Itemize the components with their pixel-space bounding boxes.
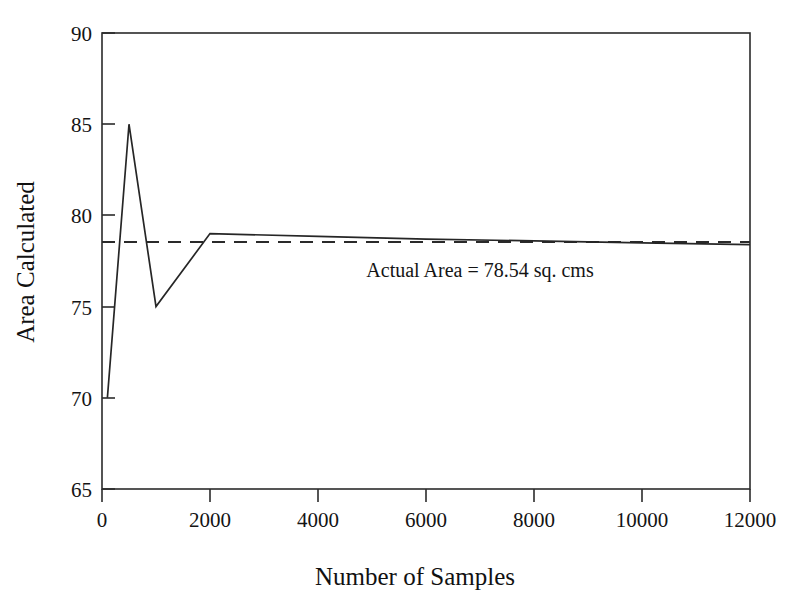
y-tick-label-75: 75 [71,296,92,320]
line-chart: 90 85 80 75 70 65 0 2000 4000 6000 8000 … [0,0,789,605]
x-tick-label-8000: 8000 [513,508,555,532]
x-tick-label-6000: 6000 [405,508,447,532]
chart-page: 90 85 80 75 70 65 0 2000 4000 6000 8000 … [0,0,789,605]
x-tick-label-4000: 4000 [297,508,339,532]
y-tick-label-80: 80 [71,204,92,228]
actual-area-annotation: Actual Area = 78.54 sq. cms [366,259,594,282]
y-tick-label-85: 85 [71,113,92,137]
x-tick-label-0: 0 [97,508,108,532]
y-axis-title: Area Calculated [12,181,39,343]
x-tick-label-10000: 10000 [616,508,669,532]
y-tick-label-90: 90 [71,22,92,46]
y-tick-label-65: 65 [71,478,92,502]
x-axis-ticks [102,489,750,502]
x-tick-label-12000: 12000 [724,508,777,532]
x-axis-title: Number of Samples [315,563,515,590]
y-tick-label-70: 70 [71,387,92,411]
y-axis-ticks [102,33,115,489]
x-tick-label-2000: 2000 [189,508,231,532]
